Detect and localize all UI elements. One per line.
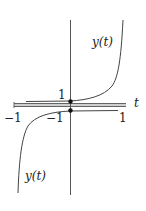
function-diagram: 1 t −1 −1 1 y(t) y(t) (0, 0, 146, 211)
lower-curve-label: y(t) (24, 169, 46, 183)
upper-curve (26, 20, 123, 102)
y-tick-neg1-label: −1 (46, 111, 64, 125)
upper-curve-label: y(t) (91, 35, 113, 49)
point-y-1 (68, 99, 72, 103)
x-tick-neg1-label: −1 (4, 111, 22, 125)
t-axis-label: t (134, 96, 139, 110)
y-tick-1-label: 1 (58, 88, 66, 102)
point-y-neg1 (68, 108, 72, 112)
x-tick-1-label: 1 (119, 111, 127, 125)
